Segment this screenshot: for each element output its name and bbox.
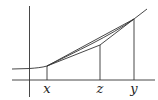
convex-function-curve [12,9,147,69]
convexity-diagram: x z y [0,0,158,100]
label-z: z [96,81,104,96]
chord-x-to-y [47,19,134,66]
label-x: x [43,81,51,96]
label-y: y [129,81,138,96]
